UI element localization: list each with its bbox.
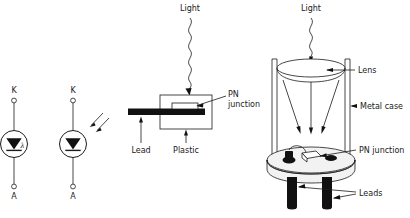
- lead-pin: [322, 177, 332, 207]
- incident-light-arrows-icon: [90, 113, 109, 132]
- metal-case-right-wall: [345, 59, 350, 160]
- pn-junction-label: PN junction: [359, 146, 404, 155]
- lead-bar: [128, 109, 205, 116]
- lambda-icon: λ: [19, 142, 24, 150]
- pn-junction-label-line2: junction: [227, 100, 260, 109]
- cathode-terminal-node: [71, 98, 76, 103]
- plastic-callout: [184, 130, 188, 143]
- light-wave-arrow-icon: [185, 18, 191, 96]
- plastic-label: Plastic: [173, 146, 199, 155]
- light-label: Light: [180, 4, 200, 13]
- lens-label: Lens: [358, 66, 376, 75]
- metal-case-package-diagram: Light: [267, 4, 404, 210]
- anode-terminal-node: [12, 184, 17, 189]
- photodiode-figure: K λ A K A Light: [0, 0, 410, 218]
- photodiode-symbol-lambda: K λ A: [1, 86, 28, 201]
- pn-junction-chip: [172, 103, 198, 109]
- anode-terminal-label: A: [70, 192, 76, 201]
- photodiode-symbol-arrows: K A: [60, 86, 110, 201]
- metal-case-callout: [350, 104, 357, 108]
- internal-light-rays: [283, 80, 339, 135]
- base-post-body: [285, 151, 293, 160]
- lead-pin-tip: [322, 205, 332, 210]
- lead-pin: [287, 177, 297, 207]
- cathode-terminal-label: K: [11, 86, 17, 95]
- anode-terminal-label: A: [11, 192, 17, 201]
- plastic-package-diagram: Light PN junction Lead Plastic: [128, 4, 260, 155]
- pn-junction-label-line1: PN: [228, 90, 239, 99]
- cathode-terminal-label: K: [70, 86, 76, 95]
- anode-terminal-node: [71, 184, 76, 189]
- leads-label: Leads: [359, 189, 382, 198]
- light-label: Light: [301, 4, 321, 13]
- lead-label: Lead: [131, 146, 150, 155]
- base-contact-pad: [325, 155, 337, 161]
- lens: [277, 59, 345, 77]
- light-wave-arrow-icon: [309, 18, 313, 64]
- cathode-terminal-node: [12, 98, 17, 103]
- base-disc-top: [267, 147, 355, 173]
- lead-callout: [139, 117, 143, 143]
- lead-pin-tip: [287, 205, 297, 210]
- metal-case-left-wall: [272, 59, 277, 160]
- metal-case-label: Metal case: [360, 102, 403, 111]
